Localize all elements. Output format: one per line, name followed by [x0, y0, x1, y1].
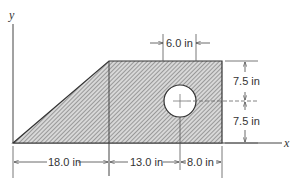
svg-text:7.5 in: 7.5 in: [233, 75, 260, 87]
dimension-hole-diameter: 6.0 in: [150, 37, 210, 49]
svg-text:7.5 in: 7.5 in: [233, 115, 260, 127]
hatched-plate: [13, 61, 258, 170]
svg-text:8.0 in: 8.0 in: [187, 156, 214, 168]
svg-text:18.0 in: 18.0 in: [48, 156, 81, 168]
dimension-base-left: 18.0 in: [14, 156, 108, 168]
dimension-base-middle: 13.0 in: [110, 156, 179, 168]
dimension-base-right: 8.0 in: [181, 156, 221, 168]
y-axis-label: y: [8, 8, 15, 22]
dimension-lower-height: 7.5 in: [233, 102, 260, 142]
y-axis: y: [8, 8, 15, 143]
dimension-upper-height: 7.5 in: [233, 62, 260, 100]
plate-diagram: y x 6.0 in 7.5 in 7.5 in: [0, 0, 302, 180]
x-axis-label: x: [283, 136, 290, 150]
svg-text:13.0 in: 13.0 in: [130, 156, 163, 168]
svg-text:6.0 in: 6.0 in: [166, 37, 193, 49]
